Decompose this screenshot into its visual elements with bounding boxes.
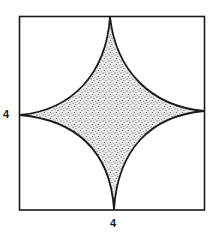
astroid-region — [20, 17, 204, 209]
side-label-bottom: 4 — [110, 218, 116, 229]
side-label-left: 4 — [3, 109, 9, 120]
astroid-diagram — [0, 0, 219, 242]
